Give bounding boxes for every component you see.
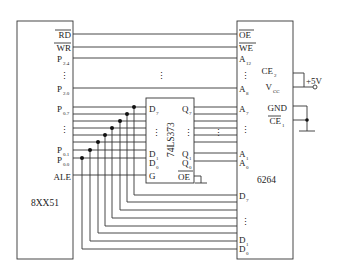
svg-text:⋮: ⋮ (152, 128, 161, 138)
svg-text:0.0: 0.0 (63, 162, 70, 167)
svg-text:1: 1 (189, 156, 192, 161)
svg-text:⋮: ⋮ (60, 125, 69, 135)
svg-text:CC: CC (273, 89, 280, 94)
svg-text:1: 1 (246, 156, 249, 161)
svg-text:Q: Q (182, 158, 189, 168)
svg-text:0.7: 0.7 (63, 111, 70, 116)
power-wiring: +5V (293, 73, 323, 89)
svg-text:⋮: ⋮ (241, 125, 250, 135)
circuit-diagram: RD WR P 2.4 ⋮ P 2.0 P 0.7 ⋮ P 0.1 P 0.0 … (0, 0, 342, 280)
svg-text:CE: CE (261, 66, 273, 76)
svg-text:7: 7 (246, 198, 249, 203)
svg-text:D: D (149, 158, 156, 168)
p0-to-latch-wires (73, 107, 146, 175)
memory-pin-labels: OE WE A 12 ⋮ A 8 A 7 ⋮ A 1 A 0 6264 D 7 … (239, 30, 287, 256)
control-and-high-address-wires (73, 34, 237, 88)
q-bus-ellipsis: ⋮ (214, 128, 223, 138)
svg-text:G: G (149, 171, 156, 181)
bus-ellipsis: ⋮ (157, 71, 166, 81)
svg-text:8: 8 (246, 91, 249, 96)
svg-text:P: P (57, 155, 62, 165)
svg-text:0.1: 0.1 (63, 152, 70, 157)
svg-text:6264: 6264 (257, 175, 276, 185)
svg-text:P: P (57, 84, 62, 94)
svg-text:2.0: 2.0 (63, 91, 70, 96)
latch-pin-labels: D 7 ⋮ D 1 D 0 G Q 7 ⋮ Q 1 Q 0 OE 74LS373 (149, 104, 193, 182)
svg-text:0: 0 (246, 251, 249, 256)
svg-text:WR: WR (57, 43, 72, 53)
svg-text:7: 7 (246, 111, 249, 116)
svg-text:2: 2 (274, 73, 277, 78)
ground-wiring (293, 106, 315, 131)
svg-text:0: 0 (189, 165, 192, 170)
svg-text:ALE: ALE (54, 172, 72, 182)
svg-text:0: 0 (156, 165, 159, 170)
svg-text:D: D (239, 244, 246, 254)
svg-text:1: 1 (156, 156, 159, 161)
svg-text:1: 1 (282, 123, 285, 128)
svg-text:⋮: ⋮ (241, 71, 250, 81)
svg-text:A: A (239, 104, 246, 114)
svg-text:Q: Q (182, 104, 189, 114)
svg-text:OE: OE (239, 30, 251, 40)
svg-text:7: 7 (189, 111, 192, 116)
svg-text:7: 7 (156, 111, 159, 116)
svg-text:A: A (239, 158, 246, 168)
svg-text:⋮: ⋮ (241, 217, 250, 227)
svg-text:D: D (149, 104, 156, 114)
svg-text:RD: RD (58, 30, 71, 40)
svg-text:A: A (239, 54, 246, 64)
svg-text:8XX51: 8XX51 (31, 198, 59, 208)
svg-text:CE: CE (269, 116, 281, 126)
svg-text:P: P (57, 104, 62, 114)
svg-text:A: A (239, 84, 246, 94)
power-label: +5V (306, 76, 323, 86)
svg-text:P: P (57, 54, 62, 64)
data-bus-taps (80, 105, 237, 249)
svg-text:WE: WE (239, 43, 253, 53)
mcu-chip-8xx51 (17, 21, 73, 259)
svg-text:1: 1 (246, 242, 249, 247)
svg-text:74LS373: 74LS373 (166, 122, 176, 157)
svg-text:GND: GND (268, 103, 288, 113)
mcu-pin-labels: RD WR P 2.4 ⋮ P 2.0 P 0.7 ⋮ P 0.1 P 0.0 … (31, 30, 71, 208)
svg-text:2.4: 2.4 (63, 61, 70, 66)
svg-text:0: 0 (246, 165, 249, 170)
svg-text:D: D (239, 191, 246, 201)
svg-text:V: V (266, 82, 273, 92)
svg-text:P: P (57, 145, 62, 155)
svg-text:12: 12 (246, 61, 252, 66)
svg-text:⋮: ⋮ (184, 128, 193, 138)
svg-text:⋮: ⋮ (60, 71, 69, 81)
latch-oe-ground-icon (194, 176, 207, 183)
svg-text:OE: OE (178, 172, 190, 182)
